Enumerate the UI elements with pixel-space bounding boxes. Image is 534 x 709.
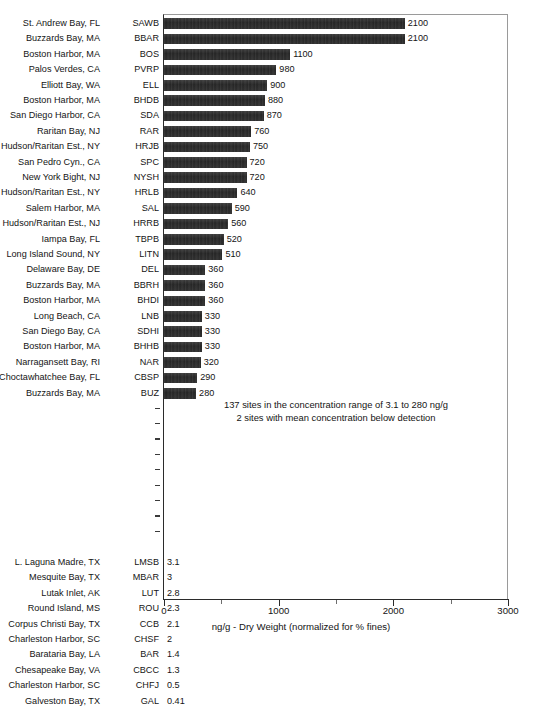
bar-value-label: 560 bbox=[231, 216, 246, 231]
site-code: SDA bbox=[104, 108, 159, 123]
x-tick-label: 0 bbox=[161, 605, 166, 617]
site-label: Raritan Bay, NJ bbox=[37, 124, 100, 139]
axis-break-dash bbox=[155, 469, 160, 470]
bar bbox=[164, 203, 232, 214]
bar-value-label: 330 bbox=[205, 309, 220, 324]
table-row: San Diego Harbor, CASDA870 bbox=[0, 108, 534, 123]
axis-break-dash bbox=[155, 500, 160, 501]
site-label: San Pedro Cyn., CA bbox=[18, 155, 100, 170]
bar-value-label: 3.1 bbox=[167, 555, 180, 570]
table-row: Long Island Sound, NYLITN510 bbox=[0, 247, 534, 262]
site-label: San Diego Bay, CA bbox=[22, 324, 100, 339]
site-label: Chesapeake Bay, VA bbox=[15, 663, 100, 678]
axis-break-dash bbox=[155, 438, 160, 439]
site-label: Hudson/Raritan Est., NY bbox=[1, 139, 100, 154]
bar bbox=[164, 219, 228, 230]
site-label: Buzzards Bay, MA bbox=[26, 386, 100, 401]
site-code: LITN bbox=[104, 247, 159, 262]
table-row bbox=[0, 524, 534, 539]
site-code: SAWB bbox=[104, 16, 159, 31]
table-row: St. Andrew Bay, FLSAWB2100 bbox=[0, 16, 534, 31]
bar bbox=[164, 265, 205, 276]
table-row: Hudson/Raritan Est., NYHRLB640 bbox=[0, 185, 534, 200]
bar bbox=[164, 172, 247, 183]
chart-annotation: 137 sites in the concentration range of … bbox=[186, 399, 486, 424]
annotation-line-1: 137 sites in the concentration range of … bbox=[186, 399, 486, 412]
axis-break-dash bbox=[155, 454, 160, 455]
bar-value-label: 1100 bbox=[293, 47, 313, 62]
table-row: San Diego Bay, CASDHI330 bbox=[0, 324, 534, 339]
x-axis-title-text: ng/g - Dry Weight (normalized for % fine… bbox=[144, 621, 390, 632]
site-code: HRJB bbox=[104, 139, 159, 154]
bar bbox=[164, 326, 202, 337]
bar-value-label: 2.8 bbox=[167, 586, 180, 601]
site-label: Lutak Inlet, AK bbox=[41, 586, 100, 601]
site-code: PVRP bbox=[104, 62, 159, 77]
bar-value-label: 760 bbox=[254, 124, 269, 139]
x-tick-label: 3000 bbox=[497, 605, 518, 617]
table-row: Lutak Inlet, AKLUT2.8 bbox=[0, 586, 534, 601]
site-label: Palos Verdes, CA bbox=[29, 62, 100, 77]
site-code: HRRB bbox=[104, 216, 159, 231]
site-label: Hudson/Raritan Est., NJ bbox=[2, 216, 100, 231]
bar bbox=[164, 142, 250, 153]
site-code: BUZ bbox=[104, 386, 159, 401]
site-code: CBSP bbox=[104, 370, 159, 385]
site-label: Iampa Bay, FL bbox=[42, 232, 100, 247]
site-label: Hudson/Raritan Est., NY bbox=[1, 185, 100, 200]
table-row bbox=[0, 463, 534, 478]
site-code: CBCC bbox=[104, 663, 159, 678]
table-row: Buzzards Bay, MABBAR2100 bbox=[0, 31, 534, 46]
site-code: MBAR bbox=[104, 570, 159, 585]
site-code: NYSH bbox=[104, 170, 159, 185]
site-label: Buzzards Bay, MA bbox=[26, 31, 100, 46]
site-code: LUT bbox=[104, 586, 159, 601]
table-row: Raritan Bay, NJRAR760 bbox=[0, 124, 534, 139]
table-row: Buzzards Bay, MABBRH360 bbox=[0, 278, 534, 293]
site-code: LNB bbox=[104, 309, 159, 324]
table-row: Elliott Bay, WAELL900 bbox=[0, 78, 534, 93]
site-code: SDHI bbox=[104, 324, 159, 339]
x-tick-minor bbox=[451, 600, 452, 604]
bar-value-label: 870 bbox=[267, 108, 282, 123]
table-row: Iampa Bay, FLTBPB520 bbox=[0, 232, 534, 247]
site-label: Galveston Bay, TX bbox=[25, 694, 100, 709]
site-label: Long Island Sound, NY bbox=[6, 247, 100, 262]
site-label: New York Bight, NJ bbox=[22, 170, 100, 185]
bar bbox=[164, 280, 205, 291]
bar-value-label: 360 bbox=[208, 262, 223, 277]
site-code: ROU bbox=[104, 601, 159, 616]
bar bbox=[164, 49, 290, 60]
table-row: Boston Harbor, MABHHB330 bbox=[0, 339, 534, 354]
axis-break-dash bbox=[155, 423, 160, 424]
site-code: BHDI bbox=[104, 293, 159, 308]
site-label: Long Beach, CA bbox=[34, 309, 100, 324]
site-label: Choctawhatchee Bay, FL bbox=[0, 370, 100, 385]
site-code: BBRH bbox=[104, 278, 159, 293]
bar bbox=[164, 95, 265, 106]
site-label: Boston Harbor, MA bbox=[23, 293, 100, 308]
table-row: Narragansett Bay, RINAR320 bbox=[0, 355, 534, 370]
bar-value-label: 720 bbox=[250, 170, 265, 185]
site-code: GAL bbox=[104, 694, 159, 709]
site-code: BBAR bbox=[104, 31, 159, 46]
site-code: HRLB bbox=[104, 185, 159, 200]
site-code: LMSB bbox=[104, 555, 159, 570]
x-tick-label: 1000 bbox=[268, 605, 289, 617]
site-code: SAL bbox=[104, 201, 159, 216]
bar-value-label: 980 bbox=[279, 62, 294, 77]
site-code: DEL bbox=[104, 262, 159, 277]
table-row: Palos Verdes, CAPVRP980 bbox=[0, 62, 534, 77]
table-row bbox=[0, 493, 534, 508]
site-label: Delaware Bay, DE bbox=[26, 262, 100, 277]
site-code: CHFJ bbox=[104, 678, 159, 693]
bar bbox=[164, 357, 201, 368]
table-row: Chesapeake Bay, VACBCC1.3 bbox=[0, 663, 534, 678]
table-row: Boston Harbor, MABOS1100 bbox=[0, 47, 534, 62]
site-code: TBPB bbox=[104, 232, 159, 247]
table-row: Choctawhatchee Bay, FLCBSP290 bbox=[0, 370, 534, 385]
bar-value-label: 360 bbox=[208, 278, 223, 293]
bar-value-label: 290 bbox=[200, 370, 215, 385]
bar-value-label: 520 bbox=[227, 232, 242, 247]
bar-value-label: 330 bbox=[205, 339, 220, 354]
